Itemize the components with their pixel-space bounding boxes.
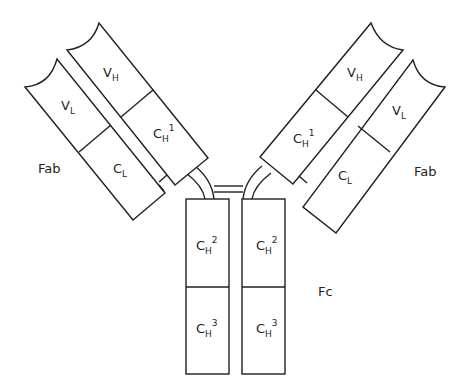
right-interchain-link <box>299 176 307 183</box>
label-fc: Fc <box>318 284 333 299</box>
label-fab-right: Fab <box>414 164 437 179</box>
left-interchain-link <box>159 175 167 182</box>
label-fab-left: Fab <box>38 161 61 176</box>
hinge-region <box>186 166 271 199</box>
fc-region <box>186 199 285 374</box>
antibody-diagram: VH CH1 VL CL Fab VH CH1 VL CL Fab CH2 CH… <box>0 0 458 382</box>
